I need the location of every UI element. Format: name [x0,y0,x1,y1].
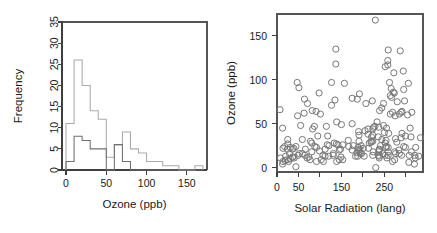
figure-container: 05101520253035050100150Ozone (ppb)Freque… [0,0,437,233]
scatter-point [391,70,397,76]
scatter-point [349,147,355,153]
histogram-y-tick-label: 10 [48,122,60,134]
scatter-point [315,133,321,139]
histogram-y-tick-label: 5 [48,146,60,152]
scatter-y-tick-label: 100 [249,74,267,86]
scatter-point [386,79,392,85]
scatter-point [413,144,419,150]
histogram-x-tick-label: 50 [100,177,112,189]
scatter-point [401,98,407,104]
histogram-x-tick-label: 0 [63,177,69,189]
scatter-point [301,96,307,102]
scatter-point [341,80,347,86]
scatter-point [394,99,400,105]
histogram-y-tick-label: 20 [48,79,60,91]
scatter-point [302,146,308,152]
histogram-x-axis-label: Ozone (ppb) [103,198,167,210]
scatter-point [316,90,322,96]
histogram-y-tick-label: 35 [48,16,60,28]
scatter-point [277,107,283,113]
scatter-point [299,136,305,142]
histogram-y-axis-label: Frequency [12,69,24,124]
scatter-point [328,79,334,85]
histogram-x-tick-label: 150 [178,177,196,189]
scatter-x-axis-label: Solar Radiation (lang) [294,202,405,214]
histogram-y-tick-label: 25 [48,58,60,70]
scatter-point [338,122,344,128]
scatter-point [332,97,338,103]
scatter-point [385,47,391,53]
scatter-y-tick-label: 50 [255,118,267,130]
scatter-point [372,17,378,23]
histogram-series-dark [66,136,203,170]
histogram-series-light [66,60,203,170]
scatter-point [301,110,307,116]
scatter-point [334,119,340,125]
scatter-point [293,164,299,170]
scatter-y-tick-label: 0 [261,162,267,174]
scatter-point [407,125,413,131]
scatter-point [349,121,355,127]
scatter-point [325,133,331,139]
scatter-x-tick-label: 0 [274,181,280,193]
scatter-point [345,137,351,143]
scatter-point [405,80,411,86]
scatter-point [304,100,310,106]
scatter-point [298,122,304,128]
histogram-y-tick-label: 15 [48,101,60,113]
scatter-x-tick-label: 250 [376,181,394,193]
scatter-point [333,46,339,52]
scatter-point [295,113,301,119]
scatter-point [309,107,315,113]
scatter-point [363,100,369,106]
scatter-plot: 050100150050150250Solar Radiation (lang)… [215,0,437,233]
histogram-x-tick-label: 100 [138,177,156,189]
scatter-x-tick-label: 50 [293,181,305,193]
scatter-point [323,123,329,129]
scatter-point [400,68,406,74]
scatter-point [401,86,407,92]
scatter-point [279,125,285,131]
histogram-plot: 05101520253035050100150Ozone (ppb)Freque… [0,0,215,233]
scatter-panel: 050100150050150250Solar Radiation (lang)… [215,0,437,233]
scatter-point [411,161,417,167]
scatter-point [333,61,339,67]
histogram-panel: 05101520253035050100150Ozone (ppb)Freque… [0,0,215,233]
scatter-point [280,145,286,151]
scatter-point [373,165,379,171]
scatter-x-tick-label: 150 [333,181,351,193]
scatter-point [397,48,403,54]
histogram-y-tick-label: 0 [48,167,60,173]
scatter-point [369,98,375,104]
scatter-y-tick-label: 150 [249,30,267,42]
scatter-y-axis-label: Ozone (ppb) [225,61,237,125]
scatter-point-group [277,17,424,171]
histogram-y-tick-label: 30 [48,37,60,49]
scatter-point [356,91,362,97]
histogram-frame [62,22,207,170]
